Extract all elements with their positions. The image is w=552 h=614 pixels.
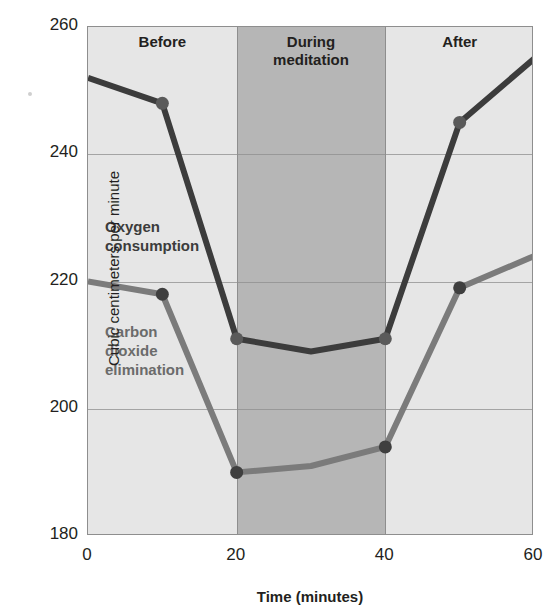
data-point-carbon-dioxide-50 <box>453 281 466 294</box>
y-tick-200: 200 <box>22 397 78 417</box>
x-tick-20: 20 <box>216 545 256 565</box>
y-tick-180: 180 <box>22 524 78 544</box>
chart-figure: Before During meditation After Oxygen co… <box>0 0 552 614</box>
y-tick-260: 260 <box>22 15 78 35</box>
x-tick-40: 40 <box>364 545 404 565</box>
zone-label-line1: During <box>237 33 386 51</box>
data-point-oxygen-50 <box>453 116 466 129</box>
x-tick-60: 60 <box>513 545 552 565</box>
data-point-carbon-dioxide-20 <box>230 466 243 479</box>
series-line-oxygen <box>88 59 533 352</box>
y-axis-title: Cubic centimeters per minute <box>105 149 122 389</box>
data-point-oxygen-20 <box>230 332 243 345</box>
x-tick-0: 0 <box>67 545 107 565</box>
zone-label-line2: meditation <box>237 51 386 69</box>
zone-label-after: After <box>385 33 533 51</box>
data-point-oxygen-10 <box>156 97 169 110</box>
zone-label-before: Before <box>88 33 237 51</box>
data-point-oxygen-40 <box>379 332 392 345</box>
series-lines-layer <box>88 27 533 535</box>
zone-label-during-meditation: During meditation <box>237 33 386 69</box>
speck-artifact <box>28 92 32 96</box>
data-point-carbon-dioxide-10 <box>156 288 169 301</box>
plot-area: Before During meditation After Oxygen co… <box>87 26 533 535</box>
y-tick-220: 220 <box>22 270 78 290</box>
x-axis-title: Time (minutes) <box>87 588 533 605</box>
data-point-carbon-dioxide-40 <box>379 440 392 453</box>
y-tick-240: 240 <box>22 142 78 162</box>
